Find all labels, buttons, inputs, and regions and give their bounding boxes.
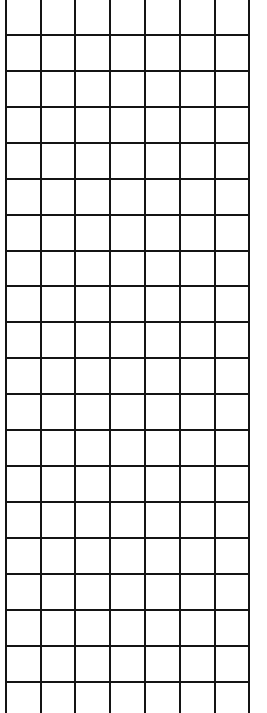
grid-horizontal-line <box>5 250 250 252</box>
grid-horizontal-line <box>5 609 250 611</box>
grid-horizontal-line <box>5 681 250 683</box>
grid-horizontal-line <box>5 285 250 287</box>
grid-horizontal-line <box>5 537 250 539</box>
grid-horizontal-line <box>5 645 250 647</box>
grid-horizontal-line <box>5 178 250 180</box>
grid-paper <box>0 0 267 713</box>
grid-horizontal-line <box>5 214 250 216</box>
grid-horizontal-line <box>5 142 250 144</box>
grid-horizontal-line <box>5 321 250 323</box>
grid-horizontal-line <box>5 70 250 72</box>
grid-horizontal-line <box>5 465 250 467</box>
grid-horizontal-line <box>5 106 250 108</box>
grid-horizontal-line <box>5 501 250 503</box>
grid-horizontal-line <box>5 34 250 36</box>
grid-horizontal-line <box>5 573 250 575</box>
grid-horizontal-line <box>5 429 250 431</box>
grid-horizontal-line <box>5 393 250 395</box>
grid-horizontal-line <box>5 357 250 359</box>
